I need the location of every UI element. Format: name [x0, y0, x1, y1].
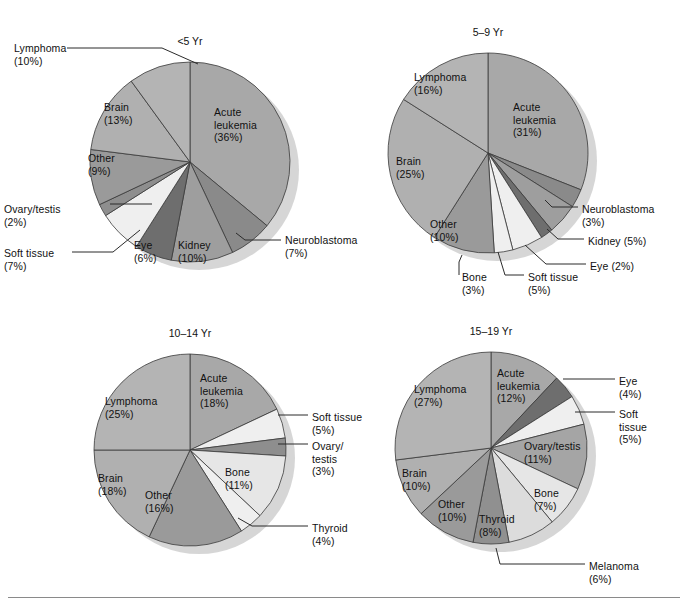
slice-label: Other (9%): [88, 152, 115, 177]
slice-label: Ovary/ testis (3%): [312, 440, 344, 478]
slice-label: Soft tissue (5%): [528, 271, 578, 296]
slice-label: Bone (3%): [462, 271, 487, 296]
slice-label: Kidney (10%): [178, 239, 211, 264]
pie-chart-figure: <5 YrAcute leukemia (36%)Neuroblastoma (…: [0, 0, 688, 611]
slice-label: Other (10%): [438, 498, 467, 523]
slice-label: Bone (11%): [225, 466, 253, 491]
slice-label: Ovary/testis (11%): [524, 440, 581, 465]
footer-rule: [8, 597, 680, 598]
slice-label: Acute leukemia (31%): [513, 101, 556, 139]
pie-10-14: [94, 354, 286, 546]
pie-charts-svg: [0, 0, 688, 611]
slice-label: Neuroblastoma (7%): [285, 234, 358, 259]
slice-label: Bone (7%): [534, 487, 559, 512]
chart-title-10-14: 10–14 Yr: [130, 327, 250, 340]
chart-title-5-9: 5–9 Yr: [428, 26, 548, 39]
slice-label: Eye (6%): [134, 239, 157, 264]
slice-label: Brain (10%): [402, 467, 431, 492]
slice-label: Lymphoma (16%): [414, 71, 466, 96]
slice-label: Other (16%): [145, 489, 174, 514]
slice-label: Thyroid (4%): [312, 522, 348, 547]
slice-label: Lymphoma (27%): [414, 383, 466, 408]
slice-label: Eye (2%): [590, 260, 634, 273]
slice-label: Kidney (5%): [588, 235, 646, 248]
slice-label: Lymphoma (25%): [105, 395, 157, 420]
slice-label: Soft tissue (5%): [312, 411, 362, 436]
slice-label: Lymphoma (10%): [14, 42, 66, 67]
slice-label: Ovary/testis (2%): [4, 203, 61, 228]
slice-label: Acute leukemia (18%): [200, 372, 243, 410]
slice-label: Other (10%): [430, 218, 459, 243]
chart-title-15-19: 15–19 Yr: [431, 325, 551, 338]
leader-line: [67, 48, 198, 64]
chart-title-under-5: <5 Yr: [130, 35, 250, 48]
slice-label: Melanoma (6%): [589, 560, 639, 585]
slice-label: Brain (13%): [104, 101, 133, 126]
pie-under-5: [90, 62, 290, 262]
slice-label: Eye (4%): [619, 375, 642, 400]
slice-label: Neuroblastoma (3%): [582, 203, 655, 228]
slice-label: Brain (25%): [396, 155, 425, 180]
slice-label: Brain (18%): [98, 472, 127, 497]
slice-label: Thyroid (8%): [479, 513, 515, 538]
slice-label: Acute leukemia (12%): [497, 367, 540, 405]
slice-label: Soft tissue (5%): [619, 408, 647, 446]
slice-label: Soft tissue (7%): [4, 247, 54, 272]
slice-label: Acute leukemia (36%): [214, 106, 257, 144]
